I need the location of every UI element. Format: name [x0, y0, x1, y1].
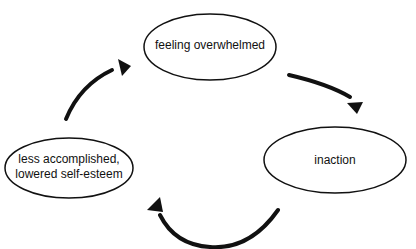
arrow-less-accomplished-to-overwhelmed — [66, 70, 112, 119]
arrow-overwhelmed-to-inaction — [289, 75, 350, 97]
node-label-inaction: inaction — [295, 153, 375, 168]
cycle-diagram: feeling overwhelmed inaction less accomp… — [0, 0, 416, 249]
arrowhead-icon — [347, 102, 363, 114]
node-label-less-accomplished: less accomplished, lowered self-esteem — [9, 152, 129, 182]
arrow-inaction-to-less-accomplished — [160, 210, 278, 247]
arrowhead-icon — [118, 59, 131, 76]
node-label-feeling-overwhelmed: feeling overwhelmed — [150, 38, 270, 53]
arrowhead-icon — [147, 197, 163, 212]
